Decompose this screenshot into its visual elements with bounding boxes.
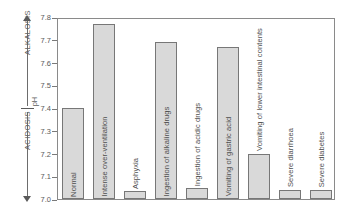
bar [310,190,332,199]
bar-label: Normal [69,172,78,197]
bars-layer: NormalIntense over-ventilationAsphyxiaIn… [58,19,334,199]
bar-label: Vomiting of gastric acid [223,117,232,197]
y-axis-tick-label: 7.8 [41,13,51,23]
bar [279,190,301,199]
bar-label: Ingestion of alkaline drugs [162,107,171,197]
y-axis-tick-label: 7.6 [41,59,51,69]
y-axis-tick-label: 7.1 [41,172,51,182]
plot-area: NormalIntense over-ventilationAsphyxiaIn… [57,18,335,200]
y-axis-tick-label: 7.3 [41,127,51,137]
y-axis: 7.87.77.67.57.47.37.27.17.0 [0,0,57,217]
bar [186,188,208,199]
y-axis-tick-label: 7.5 [41,81,51,91]
y-axis-tick-label: 7.7 [41,36,51,46]
y-axis-tick-label: 7.4 [41,104,51,114]
bar-label: Severe diabetes [316,132,325,188]
bar-label: Intense over-ventilation [100,117,109,197]
bar [124,191,146,199]
bar-label: Vomiting of lower intestinal contents [254,28,263,151]
ph-bar-chart: ALKALOSIS pH ACIDOSIS 7.87.77.67.57.47.3… [0,0,351,217]
bar-label: Ingestion of acidic drugs [193,102,202,185]
y-axis-tick-label: 7.0 [41,195,51,205]
bar [248,154,270,200]
bar-label: Asphyxia [131,157,140,188]
y-axis-tick-label: 7.2 [41,150,51,160]
bar-label: Severe diarrhoea [285,128,294,187]
